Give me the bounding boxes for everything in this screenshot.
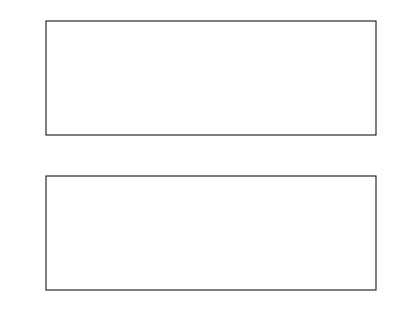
top-axes-box — [46, 21, 376, 135]
bottom-axes-box — [46, 176, 376, 290]
top-plot — [46, 21, 376, 135]
bottom-plot — [46, 176, 376, 290]
figure — [0, 0, 402, 333]
